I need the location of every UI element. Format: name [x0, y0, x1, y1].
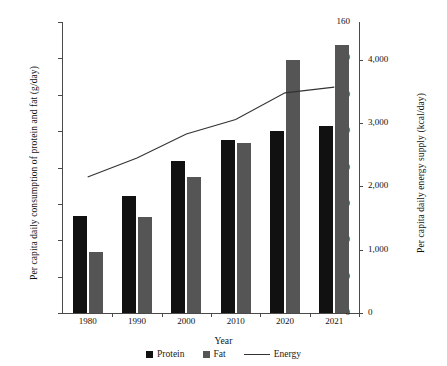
- energy-line-series: [63, 22, 359, 313]
- y-axis-left-tick-mark: [58, 95, 62, 96]
- y-axis-right-tick-label: 1,000: [368, 245, 388, 254]
- energy-polyline: [88, 87, 335, 177]
- x-axis-tick-label: 2021: [310, 317, 358, 327]
- y-axis-left-tick-mark: [58, 58, 62, 59]
- y-axis-left-tick-mark: [58, 168, 62, 169]
- x-axis-tick-label: 2020: [261, 317, 309, 327]
- plot-area: 020406080100120140160 01,0002,0003,0004,…: [63, 22, 359, 313]
- y-axis-right-tick-mark: [359, 123, 363, 124]
- y-axis-left-tick-mark: [58, 131, 62, 132]
- x-axis-tick-label: 1990: [113, 317, 161, 327]
- x-axis-tick-label: 2000: [162, 317, 210, 327]
- y-axis-right-tick-mark: [359, 60, 363, 61]
- legend-item-energy[interactable]: Energy: [244, 349, 301, 359]
- legend-item-protein[interactable]: Protein: [146, 349, 184, 359]
- y-axis-left-tick-mark: [58, 313, 62, 314]
- y-axis-right-tick-label: 2,000: [368, 181, 388, 190]
- legend-item-fat[interactable]: Fat: [203, 349, 226, 359]
- y-axis-right-tick-mark: [359, 250, 363, 251]
- legend-label: Protein: [157, 349, 184, 359]
- y-axis-left-title: Per capita daily consumption of protein …: [29, 43, 39, 303]
- legend-square-icon: [203, 351, 210, 358]
- y-axis-left-tick-mark: [58, 22, 62, 23]
- legend-line-icon: [244, 354, 270, 355]
- y-axis-right-tick-label: 4,000: [368, 55, 388, 64]
- legend-label: Fat: [214, 349, 226, 359]
- legend-label: Energy: [274, 349, 301, 359]
- x-axis-tick-mark: [359, 313, 360, 317]
- y-axis-left-tick-mark: [58, 204, 62, 205]
- legend-square-icon: [146, 351, 153, 358]
- y-axis-right-line: [359, 22, 360, 313]
- x-axis-tick-label: 1980: [64, 317, 112, 327]
- chart-legend: ProteinFatEnergy: [0, 349, 447, 359]
- y-axis-right-tick-label: 3,000: [368, 118, 388, 127]
- chart-figure: Per capita daily consumption of protein …: [0, 0, 447, 366]
- y-axis-right-tick-mark: [359, 186, 363, 187]
- y-axis-right-title: Per capita daily energy supply (kcal/day…: [416, 43, 426, 303]
- y-axis-left-tick-mark: [58, 240, 62, 241]
- x-axis-title: Year: [0, 336, 447, 346]
- y-axis-left-tick-mark: [58, 277, 62, 278]
- y-axis-right-tick-label: 0: [368, 308, 373, 317]
- x-axis-tick-label: 2010: [212, 317, 260, 327]
